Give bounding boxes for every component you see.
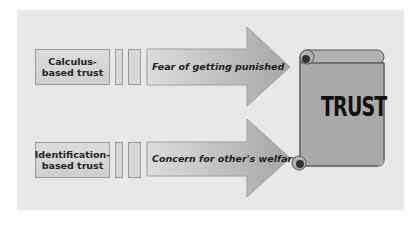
calculus-label-line1: Calculus- bbox=[42, 56, 104, 67]
connector-bar-wide bbox=[128, 142, 141, 178]
arrow-text-concern-for-welfare: Concern for other's welfare bbox=[152, 153, 299, 164]
arrow-text-fear-of-punishment: Fear of getting punished bbox=[152, 61, 284, 72]
trust-label: TRUST bbox=[321, 91, 377, 122]
connector-bar-narrow bbox=[115, 49, 123, 85]
connector-bar-narrow bbox=[115, 142, 123, 178]
calculus-based-trust-box: Calculus- based trust bbox=[35, 49, 110, 85]
identification-based-trust-box: Identification- based trust bbox=[35, 142, 110, 178]
identification-label-line2: based trust bbox=[35, 160, 110, 171]
identification-label-line1: Identification- bbox=[35, 149, 110, 160]
connector-bar-wide bbox=[128, 49, 141, 85]
calculus-label-line2: based trust bbox=[42, 67, 104, 78]
